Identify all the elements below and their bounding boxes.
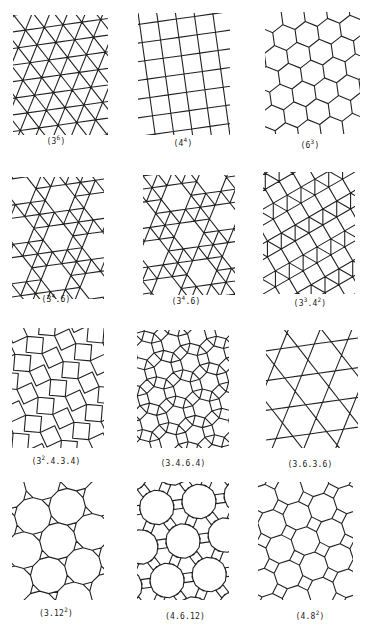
label-post: ): [75, 457, 80, 466]
tiling-label: (34.6): [42, 295, 71, 304]
tiling-label: (44): [174, 139, 193, 148]
label-rest: .4.3.4: [45, 457, 75, 466]
tiling-drawing: [138, 13, 230, 135]
label-post: ): [60, 137, 65, 146]
label-post: ): [187, 139, 192, 148]
label-base: 3.4.6.4: [165, 459, 200, 468]
label-rest: .4: [307, 299, 317, 308]
tiling-drawing: [258, 482, 353, 600]
tiling-panel-hexagonal: [265, 12, 360, 134]
tiling-drawing: [12, 177, 104, 299]
tiling-label: (32.4.3.4): [31, 457, 80, 466]
tiling-label: (33.42): [294, 299, 327, 308]
label-rest: .6: [55, 295, 65, 304]
tiling-label: (34.6): [172, 297, 201, 306]
tiling-label: (36): [47, 137, 66, 146]
label-post: ): [319, 612, 324, 621]
tiling-drawing: [266, 330, 358, 448]
label-post: ): [321, 299, 326, 308]
tiling-panel-trunchex: [12, 482, 104, 600]
tiling-drawing: [137, 482, 229, 600]
label-post: ): [328, 460, 333, 469]
label-post: ): [201, 459, 206, 468]
tiling-drawing: [12, 328, 104, 448]
label-base: 3.6.3.6: [292, 460, 327, 469]
label-post: ): [200, 612, 205, 621]
tiling-drawing: [143, 175, 235, 295]
label-post: ): [65, 295, 70, 304]
tiling-panel-rhombitrihex: [137, 330, 229, 448]
label-base: 3.12: [44, 609, 64, 618]
tiling-label: (3.6.3.6): [287, 460, 332, 469]
tiling-drawing: [265, 12, 360, 134]
label-post: ): [195, 297, 200, 306]
tiling-drawing: [13, 15, 108, 135]
label-base: 4.8: [301, 612, 316, 621]
tiling-label: (3.4.6.4): [160, 459, 205, 468]
label-base: 4.6.12: [170, 612, 200, 621]
tiling-panel-trunctrihex: [137, 482, 229, 600]
tiling-label: (4.82): [296, 612, 325, 621]
label-post: ): [68, 609, 73, 618]
label-post: ): [314, 141, 319, 150]
tiling-panel-snubhex: [12, 177, 104, 299]
tiling-panel-elongated: [263, 172, 355, 294]
tiling-panel-triangular: [13, 15, 108, 135]
tiling-panel-trihexagonal: [266, 330, 358, 448]
tiling-panel-snubhex: [143, 175, 235, 295]
tiling-label: (3.122): [39, 609, 73, 618]
tiling-drawing: [137, 330, 229, 448]
tiling-label: (63): [301, 141, 320, 150]
tiling-drawing: [12, 482, 104, 600]
tiling-panel-square: [138, 13, 230, 135]
tiling-panel-truncsquare: [258, 482, 353, 600]
tiling-drawing: [263, 172, 355, 294]
label-rest: .6: [185, 297, 195, 306]
tiling-panel-snubsquare: [12, 328, 104, 448]
tiling-label: (4.6.12): [165, 612, 205, 621]
